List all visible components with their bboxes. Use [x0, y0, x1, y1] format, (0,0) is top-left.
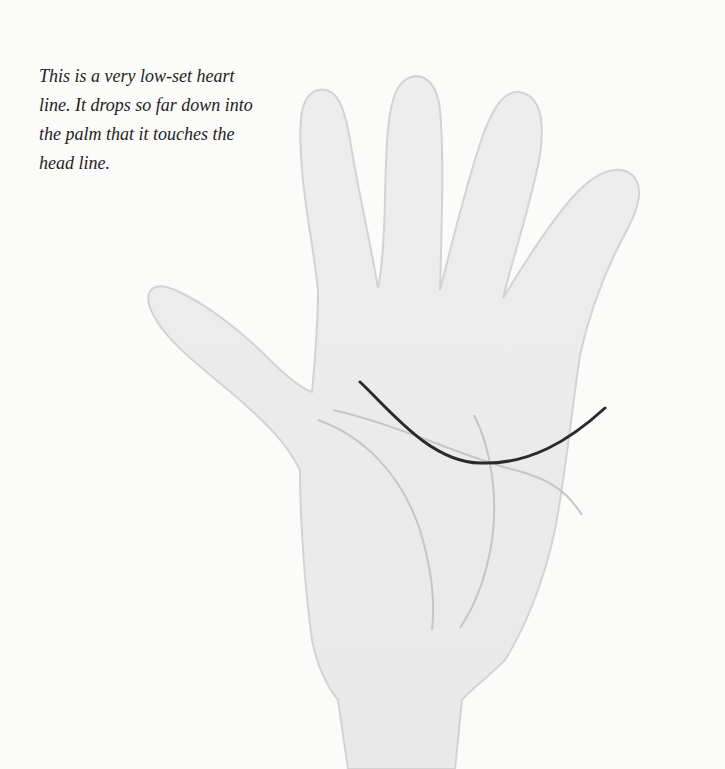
palmistry-illustration-page: This is a very low-set heart line. It dr… — [0, 0, 725, 769]
hand-illustration — [0, 0, 725, 769]
hand-silhouette — [148, 76, 639, 769]
